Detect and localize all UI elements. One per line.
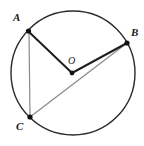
center-label-o: O (68, 56, 75, 66)
geometry-figure: A B C O (0, 0, 144, 146)
point-marker-c (27, 114, 32, 119)
segment-radius-ao (28, 31, 72, 73)
point-marker-o (70, 71, 75, 76)
segment-radius-ob (72, 43, 127, 73)
point-label-c: C (16, 121, 23, 132)
point-marker-a (26, 28, 31, 33)
point-label-b: B (131, 27, 138, 38)
point-marker-b (124, 40, 129, 45)
segment-chord-ac (29, 31, 30, 117)
point-label-a: A (13, 12, 20, 23)
segment-chord-cb (30, 43, 127, 117)
